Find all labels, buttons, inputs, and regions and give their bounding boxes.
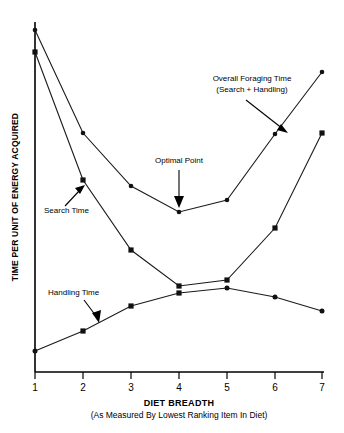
optimal-point-label: Optimal Point [155, 156, 204, 165]
handling-point-x6 [273, 295, 278, 300]
handling-point-x3 [128, 303, 133, 308]
search-time-label: Search Time [44, 206, 89, 215]
x-tick-label-3: 3 [128, 382, 134, 393]
x-tick-label-4: 4 [176, 382, 182, 393]
handling-point-x7 [320, 309, 325, 314]
handling-point-x5 [225, 286, 230, 291]
handling-point-x4 [176, 290, 181, 295]
x-axis-title: DIET BREADTH [144, 398, 215, 408]
x-axis-subtitle: (As Measured By Lowest Ranking Item In D… [91, 410, 268, 420]
overall-point-x5 [225, 198, 230, 203]
search-point-x1 [32, 49, 37, 54]
overall-point-x7 [320, 70, 325, 75]
x-tick-label-7: 7 [319, 382, 325, 393]
handling-time-label: Handling Time [48, 288, 100, 297]
overall-point-x6 [273, 132, 278, 137]
y-axis-title: TIME PER UNIT OF ENERGY ACQUIRED [10, 113, 20, 281]
x-tick-label-1: 1 [32, 382, 38, 393]
overall-point-x4 [177, 210, 182, 215]
search-point-x4 [176, 283, 181, 288]
overall-foraging-label-line1: Overall Foraging Time [213, 74, 292, 83]
foraging-theory-chart: 1 2 3 4 5 6 7 DIET BREADTH (As Measured … [0, 0, 344, 433]
x-tick-label-6: 6 [272, 382, 278, 393]
search-point-x2 [80, 177, 85, 182]
handling-point-x1 [33, 349, 38, 354]
handling-point-x2 [80, 328, 85, 333]
overall-point-x2 [81, 131, 86, 136]
x-tick-label-5: 5 [224, 382, 230, 393]
overall-point-x3 [129, 184, 134, 189]
search-point-x3 [128, 247, 133, 252]
overall-point-x1 [33, 28, 38, 33]
chart-canvas: 1 2 3 4 5 6 7 DIET BREADTH (As Measured … [0, 0, 344, 433]
search-point-x7 [319, 130, 324, 135]
search-point-x5 [224, 277, 229, 282]
overall-foraging-label-line2: (Search + Handling) [216, 85, 288, 94]
search-point-x6 [272, 225, 277, 230]
x-tick-label-2: 2 [80, 382, 86, 393]
